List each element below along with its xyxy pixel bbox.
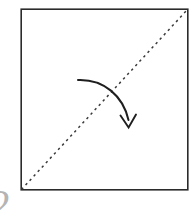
origami-fold-diagram: 2 (0, 0, 196, 210)
diagram-canvas (0, 0, 196, 210)
page-number-mark: 2 (0, 184, 11, 210)
